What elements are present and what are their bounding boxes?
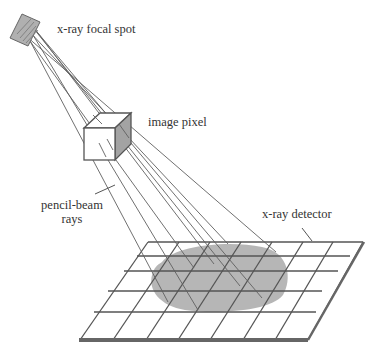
pencil-beam-label-line2: rays (36, 212, 108, 226)
detector-label: x-ray detector (262, 207, 332, 221)
focal-spot-label: x-ray focal spot (57, 22, 135, 36)
x-ray-focal-spot (10, 14, 40, 46)
image-pixel-label: image pixel (148, 115, 207, 129)
pencil-beam-label: pencil-beam rays (36, 198, 108, 226)
diagram-canvas (0, 0, 377, 357)
pencil-beam-label-line1: pencil-beam (36, 198, 108, 212)
image-pixel-cube (84, 113, 131, 160)
